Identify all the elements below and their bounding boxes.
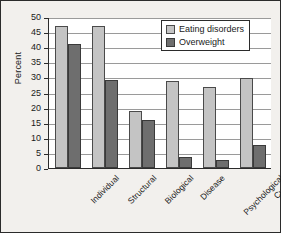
bar-group (49, 18, 86, 168)
bar (55, 26, 68, 168)
legend-swatch-overweight (166, 38, 175, 47)
y-axis-tick-label: 15 (15, 118, 41, 128)
bar (105, 80, 118, 168)
bar (166, 81, 179, 168)
x-axis-category-label: Disease (198, 173, 227, 202)
y-axis-tick-label: 25 (15, 88, 41, 98)
bar (203, 87, 216, 168)
y-axis-tick-label: 0 (15, 163, 41, 173)
y-axis-tick-label: 50 (15, 12, 41, 22)
y-axis-tick-label: 20 (15, 103, 41, 113)
bar (142, 120, 155, 168)
bar (68, 44, 81, 168)
chart-legend: Eating disorders Overweight (161, 20, 250, 51)
bar (179, 157, 192, 168)
legend-swatch-eating-disorders (166, 25, 175, 34)
y-axis-tick-label: 30 (15, 72, 41, 82)
x-axis-category-label: Individual (88, 173, 120, 205)
legend-item: Overweight (166, 37, 244, 47)
bar (253, 145, 266, 168)
chart-figure: Percent 05101520253035404550 IndividualS… (0, 0, 281, 233)
y-axis-tick-label: 40 (15, 42, 41, 52)
bar (92, 26, 105, 168)
legend-item: Eating disorders (166, 24, 244, 34)
y-axis-tick-label: 10 (15, 133, 41, 143)
y-axis-tick-mark (44, 169, 48, 170)
bar (129, 111, 142, 168)
bar-group (123, 18, 160, 168)
x-axis-category-label: Biological (163, 173, 196, 206)
x-axis-category-label: Structural (125, 173, 158, 206)
legend-label: Eating disorders (179, 24, 244, 34)
bar (216, 160, 229, 168)
bar-group (86, 18, 123, 168)
bar (240, 78, 253, 168)
y-axis-tick-label: 45 (15, 27, 41, 37)
y-axis-tick-label: 35 (15, 57, 41, 67)
y-axis-tick-label: 5 (15, 148, 41, 158)
legend-label: Overweight (179, 37, 225, 47)
